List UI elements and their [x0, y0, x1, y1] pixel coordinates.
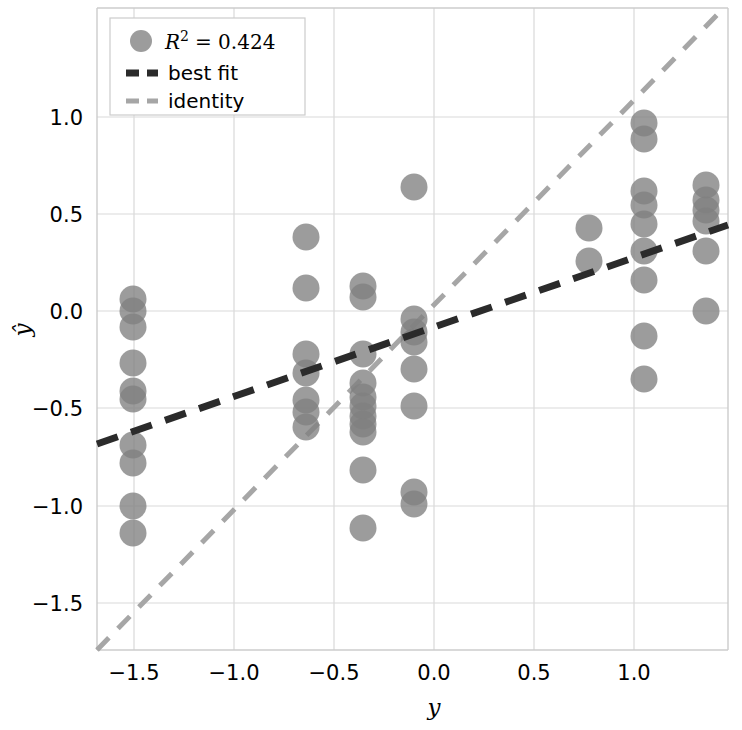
scatter-plot-figure: −1.5 −1.0 −0.5 0.0 0.5 1.0 1.0 0.5 0.0 −… [0, 0, 742, 730]
data-point [120, 520, 147, 547]
data-point [293, 224, 320, 251]
data-point [401, 491, 428, 518]
data-point [401, 356, 428, 383]
data-point [120, 493, 147, 520]
data-point [293, 275, 320, 302]
data-point [120, 450, 147, 477]
y-tick-label: −0.5 [32, 397, 83, 421]
legend-r-symbol: R [164, 30, 180, 54]
y-tick-label: 1.0 [50, 106, 83, 130]
data-point [631, 126, 658, 153]
legend-r-value: = 0.424 [195, 30, 275, 54]
x-tick-label: −1.0 [209, 661, 260, 685]
data-point [631, 267, 658, 294]
legend-label-identity: identity [168, 89, 244, 113]
data-point [631, 366, 658, 393]
legend-label-best-fit: best fit [168, 61, 238, 85]
y-tick-label: 0.5 [50, 203, 83, 227]
data-point [693, 238, 720, 265]
x-tick-label: 0.0 [417, 661, 450, 685]
data-point [293, 414, 320, 441]
data-point [120, 386, 147, 413]
legend: R2= 0.424 best fit identity [110, 18, 305, 115]
data-point [693, 298, 720, 325]
y-tick-labels: 1.0 0.5 0.0 −0.5 −1.0 −1.5 [32, 106, 83, 616]
data-point [120, 350, 147, 377]
data-point [350, 284, 377, 311]
data-point [401, 393, 428, 420]
data-point [350, 457, 377, 484]
y-axis-title: ŷ [9, 323, 35, 338]
x-tick-labels: −1.5 −1.0 −0.5 0.0 0.5 1.0 [109, 661, 651, 685]
data-point [631, 323, 658, 350]
y-tick-label: 0.0 [50, 300, 83, 324]
x-tick-label: −0.5 [309, 661, 360, 685]
data-point [350, 419, 377, 446]
x-tick-label: 1.0 [617, 661, 650, 685]
x-tick-label: −1.5 [109, 661, 160, 685]
legend-marker-scatter-icon [130, 30, 152, 52]
x-axis-title: y [427, 694, 442, 720]
y-tick-label: −1.5 [32, 592, 83, 616]
data-point [631, 211, 658, 238]
legend-r-exponent: 2 [180, 28, 189, 44]
y-tick-label: −1.0 [32, 495, 83, 519]
x-tick-label: 0.5 [517, 661, 550, 685]
data-point [401, 174, 428, 201]
data-point [120, 314, 147, 341]
data-point [350, 515, 377, 542]
data-point [576, 215, 603, 242]
plot-canvas: −1.5 −1.0 −0.5 0.0 0.5 1.0 1.0 0.5 0.0 −… [0, 0, 742, 730]
